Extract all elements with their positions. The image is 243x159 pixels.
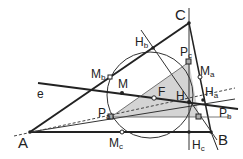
label-mc: Mc [109,137,123,151]
point-hc [187,130,191,134]
point-pb [196,114,201,119]
label-ha: Ha [205,86,218,100]
point-a [28,130,32,134]
point-h [187,100,191,104]
label-hb: Hb [135,36,148,50]
point-b [209,130,213,134]
point-hb [151,46,155,50]
point-c [187,21,191,25]
label-f: F [158,86,165,98]
point-m [120,91,124,95]
label-m: M [118,78,128,90]
point-mb [108,75,112,79]
bc-extension [211,132,218,150]
label-c: C [175,7,186,22]
label-pb: Pb [219,107,231,121]
point-mc [120,130,124,134]
label-b: B [218,132,228,147]
label-ma: Ma [200,65,214,79]
label-pa: Pa [98,107,110,121]
label-a: A [18,135,28,150]
label-e: e [37,88,44,100]
label-mb: Mb [91,68,105,82]
diagram-canvas: A B C H M F e Ha Hb Hc Ma Mb Mc Pa Pb Pc [0,0,243,159]
label-hc: Hc [192,139,205,153]
label-pc: Pc [180,46,192,60]
label-h: H [176,90,185,102]
point-f [152,96,156,100]
